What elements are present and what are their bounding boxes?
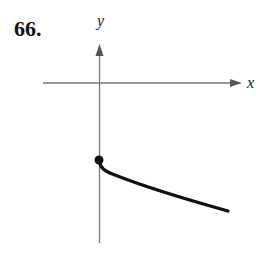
y-axis-arrow-icon [96,44,104,56]
graph [0,0,261,260]
curve [99,160,228,211]
x-axis-arrow-icon [230,79,242,87]
closed-endpoint [95,156,104,165]
